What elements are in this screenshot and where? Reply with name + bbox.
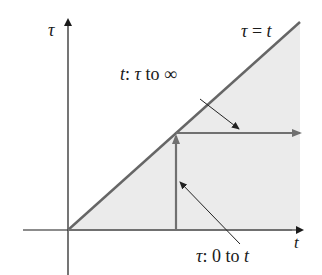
diagonal-label: τ = t	[241, 22, 272, 40]
lower-annotation-colon: :	[202, 246, 207, 266]
diagonal-label-eq: =	[252, 21, 262, 41]
upper-annotation-from: τ	[135, 64, 141, 84]
lower-annotation-from: 0	[212, 246, 221, 266]
upper-annotation-to: ∞	[164, 64, 177, 84]
upper-annotation-to-word: to	[145, 64, 159, 84]
lower-annotation-to: t	[244, 246, 249, 266]
tau-axis-label: τ	[48, 21, 54, 39]
diagonal-label-rhs: t	[267, 21, 272, 41]
diagonal-label-lhs: τ	[241, 21, 247, 41]
upper-annotation: t: τ to ∞	[120, 65, 177, 83]
upper-annotation-colon: :	[125, 64, 130, 84]
integration-region-diagram	[0, 0, 322, 275]
t-axis-label: t	[294, 234, 299, 251]
lower-annotation: τ: 0 to t	[196, 247, 249, 265]
lower-annotation-to-word: to	[225, 246, 239, 266]
